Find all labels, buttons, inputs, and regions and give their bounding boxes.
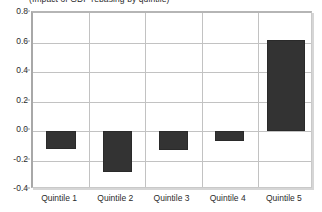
x-tick-label-quintile-4: Quintile 4 <box>210 193 246 203</box>
y-tick-mark <box>25 188 30 189</box>
y-tick-label: -0.2 <box>0 154 28 164</box>
bar <box>159 131 188 150</box>
x-tick-label-quintile-2: Quintile 2 <box>97 193 133 203</box>
y-tick-mark <box>25 129 30 130</box>
y-tick-label: 0.4 <box>0 65 28 75</box>
x-tick-label-quintile-5: Quintile 5 <box>266 193 302 203</box>
y-tick-mark <box>25 40 30 41</box>
y-tick-label: 0.2 <box>0 95 28 105</box>
gridline-y <box>33 161 311 162</box>
x-tick-label-quintile-3: Quintile 3 <box>154 193 190 203</box>
bar <box>215 131 244 141</box>
chart-title: (Impact of GDP rebasing by quintile) <box>29 0 169 4</box>
gridline-x <box>258 13 259 187</box>
y-tick-mark <box>25 11 30 12</box>
y-tick-mark <box>25 70 30 71</box>
gridline-x <box>145 13 146 187</box>
gridline-x <box>89 13 90 187</box>
y-tick-label: 0.0 <box>0 124 28 134</box>
y-tick-label: 0.8 <box>0 6 28 16</box>
gridline-x <box>202 13 203 187</box>
x-tick-label-quintile-1: Quintile 1 <box>41 193 77 203</box>
bar <box>46 131 75 149</box>
plot-area <box>31 11 312 188</box>
y-tick-mark <box>25 99 30 100</box>
y-tick-label: -0.4 <box>0 183 28 193</box>
bar <box>103 131 132 172</box>
y-tick-mark <box>25 158 30 159</box>
bar <box>267 40 305 131</box>
y-tick-label: 0.6 <box>0 36 28 46</box>
